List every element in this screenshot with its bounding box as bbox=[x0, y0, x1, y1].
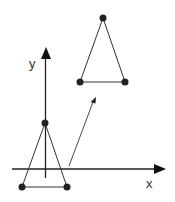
diagram-canvas: x y bbox=[0, 0, 175, 202]
triangle-edge bbox=[22, 123, 45, 187]
translation-arrow-line bbox=[69, 102, 93, 166]
triangle-edge bbox=[45, 123, 67, 187]
vertex-base-left bbox=[19, 184, 26, 191]
vertex-base-right bbox=[122, 79, 129, 86]
vertex-base-left bbox=[77, 79, 84, 86]
x-axis-label: x bbox=[146, 176, 153, 191]
x-axis-arrowhead-icon bbox=[154, 164, 166, 174]
original-triangle bbox=[19, 120, 71, 191]
triangle-edge bbox=[103, 18, 125, 82]
y-axis-arrowhead-icon bbox=[41, 47, 51, 59]
triangle-edge bbox=[80, 18, 103, 82]
vertex-apex bbox=[42, 120, 49, 127]
translation-arrow bbox=[69, 97, 96, 166]
translated-triangle bbox=[77, 15, 129, 86]
vertex-apex bbox=[100, 15, 107, 22]
vertex-base-right bbox=[64, 184, 71, 191]
translation-arrowhead-icon bbox=[91, 97, 97, 104]
y-axis-label: y bbox=[29, 56, 36, 71]
